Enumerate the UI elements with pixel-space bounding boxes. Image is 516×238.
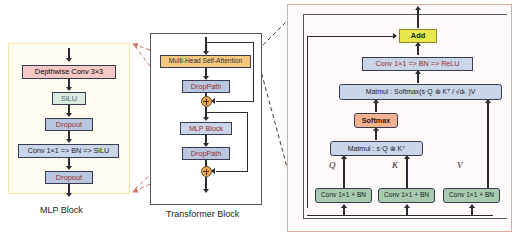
attn-k-arrow [404, 155, 410, 159]
attn-arrow-4 [373, 127, 379, 131]
attn-node-softmax-label: Softmax [362, 117, 390, 125]
tb-skip1-bottom [216, 101, 254, 102]
attn-k-feed [406, 157, 407, 188]
tb-node-add-2 [201, 166, 212, 177]
mlp-node-dropout-1: Dropout [45, 118, 93, 131]
attn-node-q-proj-label: Conv 1×1 + BN [321, 192, 366, 199]
attn-node-matmul-label: Matmul : s·Q ⊗ Kᵀ [348, 145, 406, 152]
attn-q-arrow [341, 155, 347, 159]
attn-bus-q-arrow [341, 204, 347, 208]
mlp-node-conv-bn-silu: Conv 1×1 => BN => SiLU [18, 144, 119, 158]
mlp-node-silu-label: SiLU [61, 95, 77, 103]
tb-node-mlp-block: MLP Block [180, 122, 232, 135]
attn-node-softmax: Softmax [354, 113, 398, 128]
mlp-node-dropout-1-label: Dropout [56, 121, 82, 129]
tb-node-mhsa: Multi-Head Self-Attention [160, 55, 251, 68]
tb-skip2-bottom [216, 171, 248, 172]
attn-node-conv-bn-relu-label: Conv 1×1 => BN => ReLU [375, 60, 459, 68]
mlp-arrow-1 [66, 87, 72, 91]
transformer-block-caption: Transformer Block [166, 209, 239, 219]
tb-skip2-arrow [211, 168, 215, 174]
attn-node-matmul: Matmul : s·Q ⊗ Kᵀ [330, 141, 423, 156]
tb-node-mhsa-label: Multi-Head Self-Attention [169, 58, 242, 65]
attn-arrow-3 [373, 99, 379, 103]
attn-bus-k-arrow [404, 204, 410, 208]
mlp-node-dropout-2: Dropout [45, 171, 93, 184]
attn-edge-out [417, 8, 418, 28]
mlp-node-silu: SiLU [52, 92, 86, 105]
attn-arrow-out [415, 6, 421, 10]
attn-arrow-2 [415, 70, 421, 74]
tb-arrow-out [203, 189, 209, 193]
tb-skip1-arrow [211, 98, 215, 104]
tb-skip1-top [206, 42, 254, 43]
tb-node-mlp-block-label: MLP Block [189, 125, 223, 133]
mlp-arrow-in [66, 58, 72, 62]
attn-node-add: Add [399, 29, 437, 43]
attn-branch-label-q: Q [329, 160, 336, 170]
mlp-arrow-2 [66, 113, 72, 117]
mlp-block-caption: MLP Block [40, 205, 83, 215]
attn-q-feed [343, 157, 344, 188]
tb-node-droppath-2-label: DropPath [191, 150, 221, 158]
attn-input-bus [307, 215, 493, 216]
attn-residual-arrow [393, 33, 397, 39]
mlp-node-depthwise-conv-label: Depthwise Conv 3×3 [35, 68, 103, 76]
tb-node-add-1 [201, 96, 212, 107]
mlp-node-dropout-2-label: Dropout [56, 174, 82, 182]
attn-residual-left [307, 36, 308, 208]
attn-node-q-proj: Conv 1×1 + BN [315, 188, 372, 203]
attn-node-add-label: Add [411, 32, 425, 40]
attn-arrow-1 [415, 42, 421, 46]
mlp-arrow-out [66, 193, 72, 197]
attn-node-k-proj-label: Conv 1×1 + BN [384, 192, 429, 199]
attn-node-matmul-softmax-label: Matmul : Softmax(s·Q ⊗ Kᵀ / √dₖ )V [366, 88, 476, 95]
tb-skip2-right [247, 112, 248, 172]
attn-node-matmul-softmax: Matmul : Softmax(s·Q ⊗ Kᵀ / √dₖ )V [339, 84, 502, 100]
attn-node-k-proj: Conv 1×1 + BN [378, 188, 435, 203]
tb-skip2-top [206, 112, 248, 113]
tb-node-droppath-1-label: DropPath [191, 83, 221, 91]
attn-bus-v-arrow [469, 204, 475, 208]
attn-v-arrow [485, 99, 491, 103]
attn-node-v-proj: Conv 1×1 + BN [443, 188, 500, 203]
attn-branch-label-k: K [392, 160, 398, 170]
tb-node-droppath-2: DropPath [182, 147, 230, 160]
attn-node-v-proj-label: Conv 1×1 + BN [449, 192, 494, 199]
attn-v-feed [487, 100, 488, 194]
attn-residual-top [307, 36, 393, 37]
tb-node-droppath-1: DropPath [182, 80, 230, 93]
mlp-arrow-3 [66, 139, 72, 143]
figure-root: Depthwise Conv 3×3 SiLU Dropout Conv 1×1… [0, 0, 516, 238]
mlp-node-depthwise-conv: Depthwise Conv 3×3 [22, 65, 116, 79]
tb-arrow-2 [203, 117, 209, 121]
tb-skip1-right [253, 42, 254, 102]
mlp-node-conv-bn-silu-label: Conv 1×1 => BN => SiLU [28, 147, 109, 155]
attn-branch-label-v: V [457, 160, 463, 170]
mlp-arrow-4 [66, 166, 72, 170]
attn-node-conv-bn-relu: Conv 1×1 => BN => ReLU [362, 57, 473, 71]
